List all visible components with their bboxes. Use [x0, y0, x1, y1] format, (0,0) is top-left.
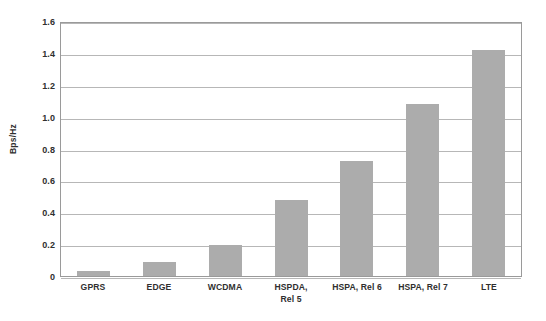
y-tick-label: 1.2	[42, 81, 55, 91]
y-tick-label: 1.0	[42, 113, 55, 123]
bar-slot	[192, 23, 258, 276]
x-tick-label: HSPDA, Rel 5	[258, 281, 324, 305]
bar[interactable]	[340, 161, 373, 276]
bar[interactable]	[77, 271, 110, 276]
bar-series	[61, 23, 521, 276]
x-axis-tick-labels: GPRSEDGEWCDMAHSPDA, Rel 5HSPA, Rel 6HSPA…	[60, 281, 522, 305]
y-tick-label: 0	[50, 272, 55, 282]
x-tick-label: LTE	[456, 281, 522, 305]
y-axis-tick-labels: 1.61.41.21.00.80.60.40.20	[26, 22, 60, 277]
y-tick-label: 0.2	[42, 240, 55, 250]
y-tick-label: 1.6	[42, 17, 55, 27]
bar[interactable]	[406, 104, 439, 276]
bar-slot	[390, 23, 456, 276]
bar-slot	[127, 23, 193, 276]
bar-slot	[61, 23, 127, 276]
y-tick-label: 0.4	[42, 208, 55, 218]
bar-chart-figure: Bps/Hz 1.61.41.21.00.80.60.40.20 GPRSEDG…	[0, 0, 546, 321]
y-tick-label: 1.4	[42, 49, 55, 59]
x-tick-label: EDGE	[126, 281, 192, 305]
x-tick-label: GPRS	[60, 281, 126, 305]
bar[interactable]	[209, 245, 242, 276]
bar-slot	[455, 23, 521, 276]
bar[interactable]	[275, 200, 308, 277]
bar-slot	[258, 23, 324, 276]
y-tick-label: 0.6	[42, 176, 55, 186]
y-axis-title-text: Bps/Hz	[8, 123, 18, 153]
y-axis-title: Bps/Hz	[0, 0, 26, 277]
bar-slot	[324, 23, 390, 276]
x-tick-label: HSPA, Rel 6	[324, 281, 390, 305]
y-tick-label: 0.8	[42, 145, 55, 155]
x-tick-label: HSPA, Rel 7	[390, 281, 456, 305]
x-tick-label: WCDMA	[192, 281, 258, 305]
bar[interactable]	[143, 262, 176, 276]
plot-area	[60, 22, 522, 277]
gridline	[61, 278, 521, 279]
bar[interactable]	[472, 50, 505, 276]
